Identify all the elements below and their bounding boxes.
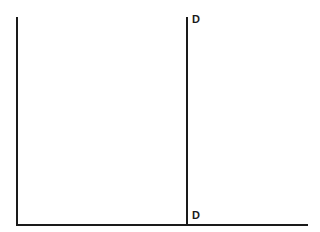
demand-label-top: D — [192, 14, 200, 25]
x-axis — [16, 224, 308, 226]
demand-curve-vertical — [186, 17, 188, 226]
y-axis — [16, 17, 18, 226]
demand-label-bottom: D — [192, 210, 200, 221]
